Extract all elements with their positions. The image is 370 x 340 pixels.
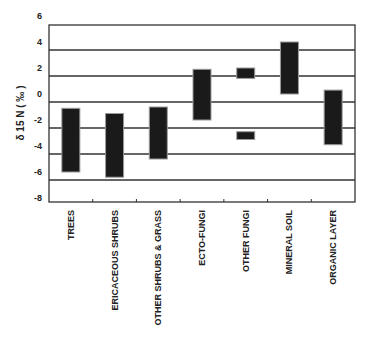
range-bar-mineral-soil <box>280 42 298 94</box>
y-tick-label: 2 <box>37 63 42 73</box>
y-tick-label: 6 <box>37 11 42 21</box>
y-tick-label: -4 <box>34 141 42 151</box>
range-bar-other-shrubs-grass <box>149 107 167 159</box>
y-tick-labels: 6420-2-4-6-8 <box>34 11 42 203</box>
x-category-label: OTHER SHRUBS & GRASS <box>153 210 163 326</box>
range-bar-other-fungi <box>237 68 255 78</box>
x-category-label: ORGANIC LAYER <box>328 210 338 285</box>
range-bar-ecto-fungi <box>193 69 211 120</box>
range-bars <box>62 42 342 177</box>
y-tick-label: -8 <box>34 193 42 203</box>
y-tick-label: -2 <box>34 115 42 125</box>
y-tick-label: -6 <box>34 167 42 177</box>
x-category-label: TREES <box>66 210 76 240</box>
range-bar-organic-layer <box>324 90 342 145</box>
x-category-label: ECTO-FUNGI <box>197 210 207 266</box>
range-bar-trees <box>62 108 80 172</box>
y-tick-label: 4 <box>37 37 42 47</box>
range-bar-other-fungi <box>237 132 255 140</box>
y-axis-title: δ 15 N ( ‰ ) <box>15 86 26 141</box>
range-chart: 6420-2-4-6-8 TREESERICACEOUS SHRUBSOTHER… <box>0 0 370 340</box>
x-category-labels: TREESERICACEOUS SHRUBSOTHER SHRUBS & GRA… <box>66 210 338 326</box>
x-category-label: MINERAL SOIL <box>284 210 294 275</box>
y-tick-label: 0 <box>37 89 42 99</box>
range-bar-ericaceous-shrubs <box>106 114 124 178</box>
x-category-label: OTHER FUNGI <box>241 210 251 272</box>
x-category-label: ERICACEOUS SHRUBS <box>110 210 120 311</box>
